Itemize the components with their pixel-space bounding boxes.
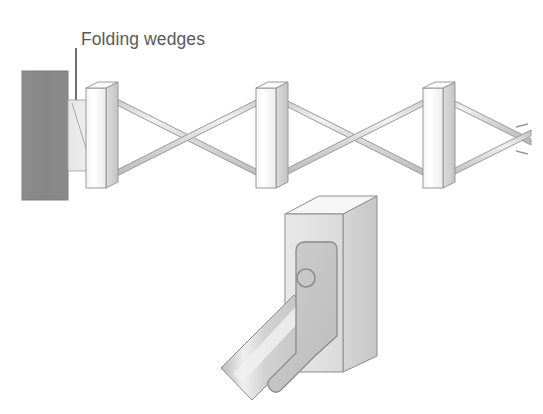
lattice-slat-side-face — [443, 82, 455, 188]
lattice-slat — [256, 82, 288, 188]
lattice-slat-side-face — [106, 82, 118, 188]
technical-illustration-svg: Folding wedges — [0, 0, 543, 414]
wall-block-face — [22, 71, 68, 200]
wall-block — [22, 71, 68, 200]
folding-wedges-label: Folding wedges — [81, 29, 205, 49]
lattice-slat-front-face — [86, 88, 106, 188]
lattice-slat-front-face — [256, 88, 276, 188]
detail-post-side-face — [343, 196, 377, 372]
lattice-slat-front-face — [423, 88, 443, 188]
lattice-slat — [86, 82, 118, 188]
lattice-slat — [423, 82, 455, 188]
lattice-slat-side-face — [276, 82, 288, 188]
diagram-root: Folding wedges — [0, 0, 543, 414]
